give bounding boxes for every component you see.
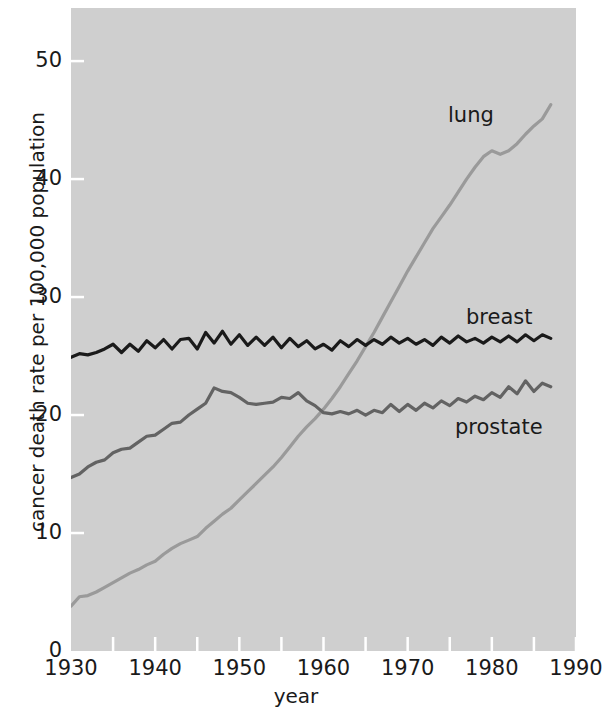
series-line-lung (71, 105, 551, 606)
series-label-breast: breast (466, 307, 532, 328)
series-label-prostate: prostate (455, 417, 543, 438)
x-axis-title: year (0, 684, 592, 708)
x-tick-label: 1980 (452, 656, 532, 680)
x-axis-tick-labels: 1930194019501960197019801990 (0, 656, 592, 686)
x-tick-label: 1990 (536, 656, 606, 680)
x-tick-label: 1940 (115, 656, 195, 680)
series-label-lung: lung (448, 105, 494, 126)
plot-area (71, 8, 576, 651)
series-line-breast (71, 331, 551, 357)
x-tick-label: 1950 (199, 656, 279, 680)
y-axis-title: cancer death rate per 100,000 population (25, 2, 49, 642)
x-tick-label: 1930 (31, 656, 111, 680)
plot-svg (71, 8, 576, 651)
x-tick-label: 1970 (368, 656, 448, 680)
x-tick-label: 1960 (284, 656, 364, 680)
tick-marks-group (71, 61, 576, 651)
series-paths-group (71, 105, 551, 606)
